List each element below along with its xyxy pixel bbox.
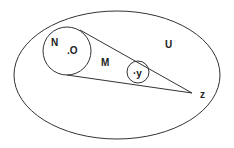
label-y: ·y [133,68,142,79]
diagram: N .O M U ·y z [0,0,234,148]
label-m: M [101,57,109,68]
upper-tangent-line [80,30,192,93]
label-o: .O [67,45,78,56]
label-z: z [200,89,205,100]
label-u: U [165,39,172,50]
outer-ellipse-u [14,11,220,139]
lower-tangent-line [67,75,192,93]
label-n: N [51,37,58,48]
